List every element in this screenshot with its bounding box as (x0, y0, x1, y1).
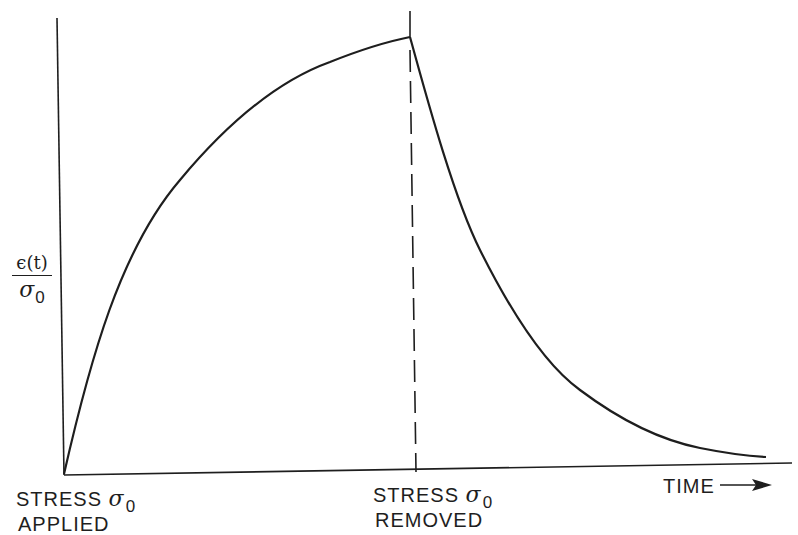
stress-removed-dashed-line (410, 50, 416, 472)
y-axis-label: ϵ(t) σ0 (12, 252, 52, 308)
creep-curve (64, 37, 410, 474)
x-axis (64, 463, 792, 475)
y-label-numerator: ϵ(t) (12, 252, 52, 276)
y-label-denominator: σ0 (12, 276, 52, 308)
stress-removed-label-line1: STRESS σ0 (373, 484, 493, 511)
x-axis-label: TIME (663, 476, 715, 496)
creep-recovery-diagram: ϵ(t) σ0 STRESS σ0 APPLIED STRESS σ0 REMO… (0, 0, 798, 535)
stress-removed-label-line2: REMOVED (375, 510, 483, 530)
stress-applied-label-line2: APPLIED (18, 514, 109, 534)
stress-applied-label-line1: STRESS σ0 (16, 488, 136, 515)
recovery-curve (410, 37, 766, 457)
y-axis (57, 18, 64, 475)
diagram-canvas (0, 0, 798, 535)
